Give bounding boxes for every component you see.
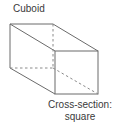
edge-top-right-depth xyxy=(53,24,98,51)
caption-line-1: Cross-section: xyxy=(44,99,115,111)
front-face-square xyxy=(55,51,98,94)
edge-top-left-depth xyxy=(10,24,55,51)
cross-section-caption: Cross-section: square xyxy=(44,99,115,123)
edge-bottom-left-depth xyxy=(10,68,55,94)
hidden-edge-depth xyxy=(53,68,98,94)
caption-line-2: square xyxy=(44,111,115,123)
